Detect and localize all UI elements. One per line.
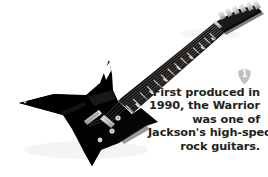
photo-caption: First produced in 1990, the Warrior was … <box>148 86 260 153</box>
guitar-feature-figure: Black Jackson Warrior electric guitar an… <box>0 0 268 177</box>
guitar-pick-badge: 1 <box>237 68 252 86</box>
caption-line-1: First produced in <box>148 86 260 99</box>
output-jack <box>98 138 103 143</box>
caption-line-3: was one of <box>148 113 260 126</box>
strap-button <box>24 101 27 104</box>
pick-badge-number: 1 <box>237 69 252 80</box>
caption-line-2: 1990, the Warrior <box>148 99 260 112</box>
caption-line-4: Jackson's high-spec <box>148 126 260 139</box>
caption-line-5: rock guitars. <box>148 140 260 153</box>
